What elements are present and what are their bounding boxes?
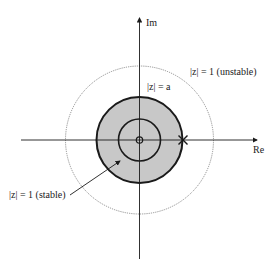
stable-label-arrow	[70, 161, 120, 195]
stable-circle-label: |z| = 1 (stable)	[9, 189, 66, 201]
z-plane-diagram: Im Re |z| = 1 (unstable) |z| = a |z| = 1…	[0, 0, 277, 271]
a-circle-label: |z| = a	[147, 81, 171, 92]
im-axis-label: Im	[146, 17, 157, 28]
re-axis-label: Re	[253, 144, 265, 155]
unstable-circle-label: |z| = 1 (unstable)	[190, 66, 257, 78]
